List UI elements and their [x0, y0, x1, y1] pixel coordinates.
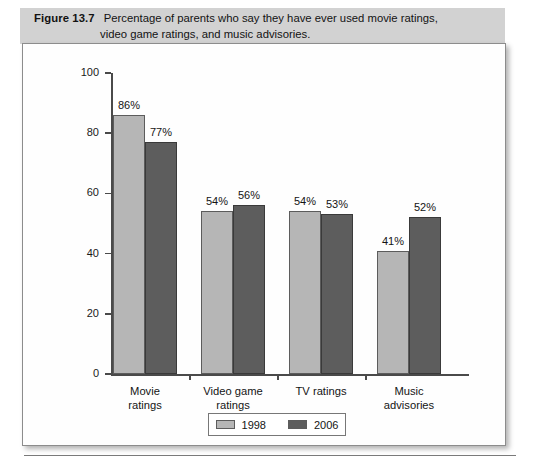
y-axis-tick-label-wrap: 100	[65, 73, 99, 74]
bar-value-label: 86%	[109, 99, 149, 111]
x-axis-line	[111, 374, 469, 376]
category-label-line: Music	[349, 384, 469, 398]
y-axis-tick	[105, 313, 111, 315]
y-axis-tick-label: 60	[69, 186, 99, 198]
y-axis-tick	[105, 72, 111, 74]
y-axis-tick	[105, 132, 111, 134]
y-axis-tick	[105, 373, 111, 375]
figure-number: Figure 13.7	[34, 12, 95, 24]
x-axis-separator-tick	[189, 375, 191, 380]
y-axis-tick	[105, 193, 111, 195]
bar-value-label: 56%	[229, 189, 269, 201]
bar-value-label: 53%	[317, 198, 357, 210]
bar-2006-0[interactable]	[145, 142, 177, 374]
caption-line-1: Figure 13.7Percentage of parents who say…	[34, 11, 495, 27]
legend-swatch-2006	[288, 420, 307, 429]
y-axis-tick	[105, 253, 111, 255]
y-axis-tick-label-wrap: 60	[65, 193, 99, 194]
figure-caption-band: Figure 13.7Percentage of parents who say…	[20, 8, 505, 44]
legend-label-1998: 1998	[242, 419, 266, 431]
legend-label-2006: 2006	[314, 419, 338, 431]
chart-legend: 1998 2006	[208, 413, 346, 436]
bar-1998-0[interactable]	[113, 115, 145, 374]
legend-item-2006: 2006	[288, 419, 338, 431]
caption-text-line-1: Percentage of parents who say they have …	[104, 12, 438, 24]
bar-1998-2[interactable]	[289, 211, 321, 374]
y-axis-tick-label-wrap: 20	[65, 314, 99, 315]
bar-value-label: 52%	[405, 201, 445, 213]
legend-item-1998: 1998	[216, 419, 266, 431]
bar-1998-1[interactable]	[201, 211, 233, 374]
category-label-line: advisories	[349, 398, 469, 412]
bar-value-label: 77%	[141, 126, 181, 138]
y-axis-tick-label: 0	[69, 367, 99, 379]
bar-chart-plot: 02040608010086%77%Movieratings54%56%Vide…	[23, 44, 507, 447]
legend-swatch-1998	[216, 420, 235, 429]
y-axis-tick-label: 20	[69, 307, 99, 319]
y-axis-tick-label: 100	[69, 66, 99, 78]
y-axis-tick-label-wrap: 40	[65, 254, 99, 255]
y-axis-tick-label: 40	[69, 247, 99, 259]
x-axis-separator-tick	[365, 375, 367, 380]
y-axis-tick-label-wrap: 80	[65, 133, 99, 134]
bar-value-label: 41%	[373, 235, 413, 247]
y-axis-tick-label-wrap: 0	[65, 374, 99, 375]
category-label-line: ratings	[173, 398, 293, 412]
bar-2006-2[interactable]	[321, 214, 353, 374]
figure-frame: 02040608010086%77%Movieratings54%56%Vide…	[22, 43, 506, 446]
x-axis-category-label: Musicadvisories	[349, 384, 469, 412]
bar-2006-1[interactable]	[233, 205, 265, 374]
bar-2006-3[interactable]	[409, 217, 441, 374]
x-axis-separator-tick	[277, 375, 279, 380]
bar-1998-3[interactable]	[377, 251, 409, 374]
y-axis-tick-label: 80	[69, 126, 99, 138]
caption-text-line-2: video game ratings, and music advisories…	[34, 27, 495, 43]
page-rule	[24, 455, 516, 456]
